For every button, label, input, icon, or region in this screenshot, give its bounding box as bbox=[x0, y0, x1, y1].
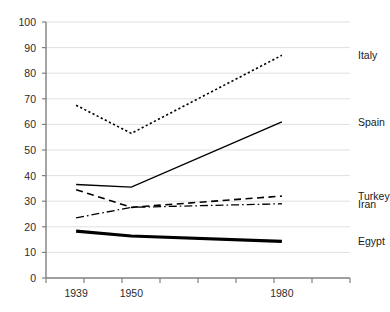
y-axis-tick-label: 70 bbox=[10, 94, 36, 105]
x-axis-ticks bbox=[46, 278, 350, 283]
series-line-spain bbox=[76, 122, 282, 187]
y-axis-tick-label: 40 bbox=[10, 171, 36, 182]
y-axis-tick-label: 10 bbox=[10, 247, 36, 258]
series-lines bbox=[76, 55, 282, 241]
y-axis-tick-label: 80 bbox=[10, 68, 36, 79]
x-axis-tick-label: 1950 bbox=[111, 288, 151, 299]
y-axis-tick-label: 20 bbox=[10, 222, 36, 233]
x-axis-tick-label: 1980 bbox=[262, 288, 302, 299]
series-label-spain: Spain bbox=[358, 117, 385, 128]
series-label-italy: Italy bbox=[358, 50, 377, 61]
y-axis-tick-label: 50 bbox=[10, 145, 36, 156]
series-label-iran: Iran bbox=[358, 199, 376, 210]
y-axis-tick-label: 60 bbox=[10, 119, 36, 130]
series-line-italy bbox=[76, 55, 282, 133]
series-label-egypt: Egypt bbox=[358, 236, 385, 247]
series-line-iran bbox=[76, 204, 282, 218]
y-axis-tick-label: 100 bbox=[10, 17, 36, 28]
x-axis-tick-label: 1939 bbox=[56, 288, 96, 299]
y-axis-tick-label: 30 bbox=[10, 196, 36, 207]
y-axis-tick-label: 90 bbox=[10, 43, 36, 54]
series-line-egypt bbox=[76, 231, 282, 241]
y-axis-tick-label: 0 bbox=[10, 273, 36, 284]
gridlines bbox=[46, 22, 350, 252]
